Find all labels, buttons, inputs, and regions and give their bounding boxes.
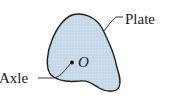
axle-label: Axle <box>0 70 29 86</box>
axle-point-o <box>70 61 74 65</box>
origin-label: O <box>78 54 89 70</box>
plate-shape <box>47 14 120 91</box>
plate-leader-line <box>104 17 123 31</box>
plate-axle-diagram: Plate O Axle <box>0 0 182 108</box>
plate-label: Plate <box>125 11 155 27</box>
